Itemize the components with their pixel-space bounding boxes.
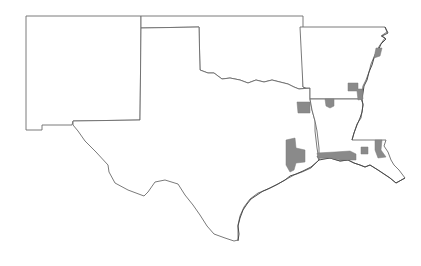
state-new-mexico xyxy=(26,16,141,130)
state-arkansas xyxy=(300,27,387,99)
highlighted-region-s-louisiana-small xyxy=(361,147,368,154)
state-louisiana xyxy=(310,99,405,183)
map xyxy=(0,0,421,266)
highlighted-region-ne-texas xyxy=(297,102,310,113)
